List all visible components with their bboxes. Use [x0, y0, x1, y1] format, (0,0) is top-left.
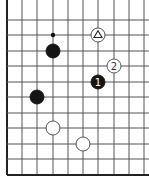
black-stone: [46, 44, 60, 58]
white-stone: 2: [107, 59, 121, 73]
board-markers: [51, 33, 55, 37]
black-stone: 1: [91, 75, 105, 89]
move-number-label: 1: [95, 77, 101, 88]
white-stone: [91, 28, 105, 42]
go-board-diagram: 21: [0, 0, 149, 186]
move-number-label: 2: [111, 61, 117, 72]
board-stones: 21: [30, 28, 121, 151]
black-stone: [30, 90, 44, 104]
white-stone: [76, 137, 90, 151]
white-stone: [46, 121, 60, 135]
point-marker-dot: [51, 33, 55, 37]
